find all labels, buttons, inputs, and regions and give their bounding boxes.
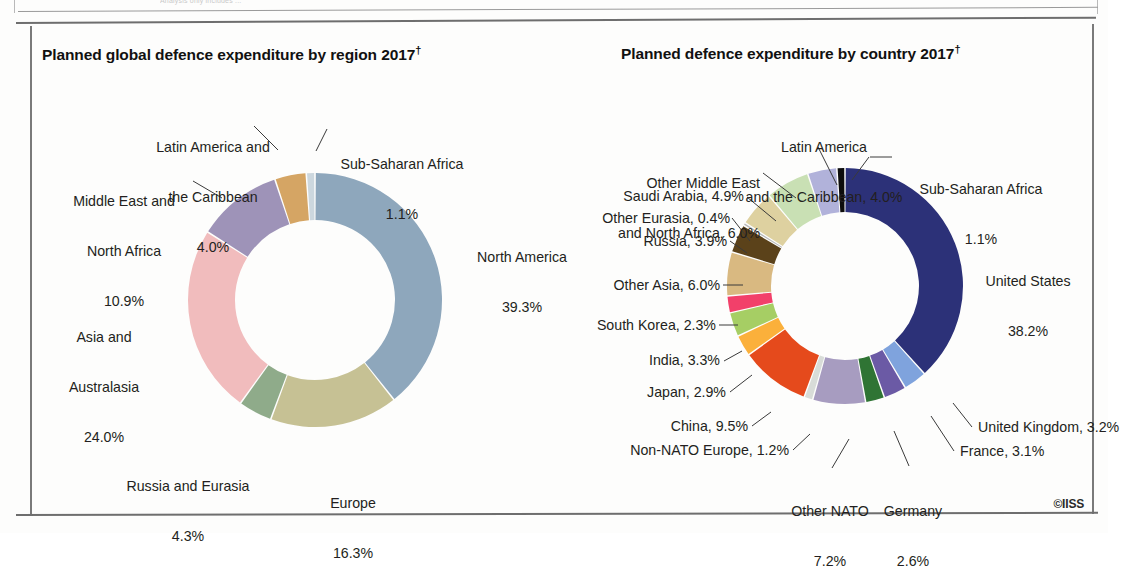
label-sub-saharan-africa-value: 1.1% xyxy=(316,206,488,223)
leader-line-france xyxy=(931,416,954,451)
label-ssa-line1: Sub-Saharan Africa xyxy=(896,181,1066,198)
iiss-copyright-mark: ©IISS xyxy=(1053,497,1084,511)
label-non-nato-europe: Non-NATO Europe, 1.2% xyxy=(572,442,789,459)
label-russia-eurasia-value: 4.3% xyxy=(108,528,268,545)
label-south-korea: South Korea, 2.3% xyxy=(572,317,716,334)
label-united-states: United States 38.2% xyxy=(970,240,1086,373)
label-north-america-name: North America xyxy=(464,249,580,266)
label-united-states-line2: 38.2% xyxy=(970,323,1086,340)
label-japan: Japan, 2.9% xyxy=(572,384,726,401)
label-china: China, 9.5% xyxy=(572,418,748,435)
label-saudi-arabia: Saudi Arabia, 4.9% xyxy=(572,188,744,205)
leader-line-china xyxy=(752,412,771,426)
label-mena-line1: Middle East and xyxy=(54,193,194,210)
label-mena-line2: North Africa xyxy=(54,243,194,260)
label-sub-saharan-africa-name: Sub-Saharan Africa xyxy=(316,156,488,173)
label-latin-america-line2: and the Caribbean, 4.0% xyxy=(734,189,914,206)
label-north-america-value: 39.3% xyxy=(464,299,580,316)
horizontal-rule xyxy=(18,7,1098,12)
label-other-eurasia: Other Eurasia, 0.4% xyxy=(572,210,730,227)
label-europe-value: 16.3% xyxy=(302,545,404,562)
leader-line-united-kingdom xyxy=(953,403,972,427)
label-germany-line2: 2.6% xyxy=(867,553,959,570)
label-latin-america-line1: Latin America xyxy=(734,139,914,156)
label-latin-america-line1: Latin America and xyxy=(118,139,308,156)
left-chart-panel: Planned global defence expenditure by re… xyxy=(16,22,576,518)
label-germany-line1: Germany xyxy=(867,503,959,520)
leader-line-non-nato-europe xyxy=(793,434,810,450)
label-asia-value: 24.0% xyxy=(44,429,164,446)
label-india: India, 3.3% xyxy=(572,352,720,369)
label-russia: Russia, 3.9% xyxy=(572,233,727,250)
scan-frame-edge-left xyxy=(14,0,15,13)
leader-line-japan xyxy=(730,375,752,392)
label-sub-saharan-africa: Sub-Saharan Africa 1.1% xyxy=(316,123,488,256)
label-other-asia: Other Asia, 6.0% xyxy=(572,277,720,294)
label-europe: Europe 16.3% xyxy=(302,462,404,570)
label-latin-america-caribbean: Latin America and the Caribbean, 4.0% xyxy=(734,106,914,239)
label-germany: Germany 2.6% xyxy=(867,470,959,570)
right-chart-panel: Planned defence expenditure by country 2… xyxy=(572,22,1098,518)
label-europe-name: Europe xyxy=(302,495,404,512)
label-asia-line1: Asia and xyxy=(44,329,164,346)
leader-line-india xyxy=(724,351,742,361)
label-asia-line2: Australasia xyxy=(44,379,164,396)
label-united-kingdom: United Kingdom, 3.2% xyxy=(978,419,1124,436)
cropped-caption-text: Analysis only includes ... xyxy=(160,0,490,6)
label-north-america: North America 39.3% xyxy=(464,216,580,349)
label-france: France, 3.1% xyxy=(960,443,1100,460)
label-united-states-line1: United States xyxy=(970,273,1086,290)
label-russia-eurasia-name: Russia and Eurasia xyxy=(108,478,268,495)
label-russia-eurasia: Russia and Eurasia 4.3% xyxy=(108,445,268,570)
label-other-middle-east-north-africa: Other Middle East and North Africa, 6.0% xyxy=(572,142,760,275)
leader-line-other-nato xyxy=(832,439,849,468)
leader-line-germany xyxy=(894,431,909,466)
